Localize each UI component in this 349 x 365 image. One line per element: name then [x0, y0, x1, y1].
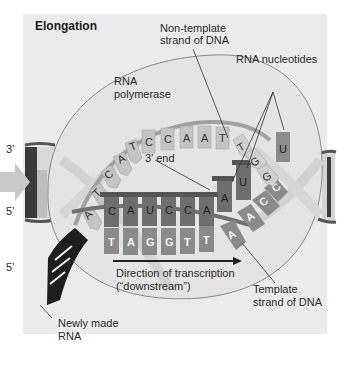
svg-text:C: C: [165, 204, 173, 216]
svg-text:G: G: [165, 236, 174, 248]
diagram-title: Elongation: [35, 19, 97, 33]
svg-text:C: C: [108, 205, 116, 217]
svg-text:U: U: [146, 204, 154, 216]
label-template-line2: strand of DNA: [253, 296, 322, 308]
label-3prime-left: 3’: [6, 143, 15, 155]
label-newly-made-line2: RNA: [58, 330, 81, 342]
label-5prime-rna: 5’: [6, 261, 15, 273]
svg-text:T: T: [184, 236, 191, 248]
label-newly-made-line1: Newly made: [58, 317, 119, 329]
svg-text:A: A: [127, 204, 135, 216]
svg-text:U: U: [239, 176, 247, 188]
svg-text:T: T: [203, 234, 210, 246]
svg-text:T: T: [219, 132, 226, 144]
label-direction-line2: (“downstream”): [116, 280, 191, 292]
label-direction-line1: Direction of transcription: [116, 267, 235, 279]
label-template-line1: Template: [253, 283, 298, 295]
svg-text:T: T: [108, 236, 115, 248]
label-non-template-line1: Non-template: [160, 22, 226, 34]
svg-text:U: U: [279, 143, 287, 155]
svg-text:A: A: [221, 192, 229, 204]
label-rna-nucleotides: RNA nucleotides: [236, 53, 317, 65]
label-rna-polymerase-line1: RNA: [114, 75, 137, 87]
label-three-prime-end: 3’ end: [145, 152, 175, 164]
svg-text:A: A: [203, 204, 211, 216]
svg-text:C: C: [164, 133, 172, 145]
svg-text:A: A: [201, 132, 209, 144]
svg-text:A: A: [127, 236, 135, 248]
svg-text:A: A: [183, 132, 191, 144]
label-5prime-left: 5’: [6, 205, 15, 217]
svg-text:G: G: [146, 236, 155, 248]
label-rna-polymerase-line2: polymerase: [114, 88, 171, 100]
label-non-template-line2: strand of DNA: [160, 34, 229, 46]
svg-text:C: C: [145, 136, 153, 148]
svg-text:C: C: [184, 204, 192, 216]
